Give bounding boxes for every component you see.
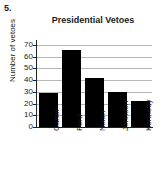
y-tick-label: 70 xyxy=(3,41,33,49)
y-tick-mark xyxy=(33,80,36,81)
y-tick-label: 20 xyxy=(3,100,33,108)
x-axis-category-label: Ford xyxy=(76,115,84,131)
y-tick-label: 10 xyxy=(3,111,33,119)
gridline xyxy=(37,45,152,46)
gridline xyxy=(37,68,152,69)
x-axis-category-label: Carter xyxy=(53,109,61,131)
y-tick-label: 60 xyxy=(3,53,33,61)
x-axis-category-label: Kennedy xyxy=(145,99,153,131)
y-tick-mark xyxy=(33,45,36,46)
presidential-vetoes-figure: 5. Presidential Vetoes Number of vetoes … xyxy=(0,0,161,178)
x-axis-category-label: Johnson xyxy=(122,101,130,131)
x-axis-category-label: Nixon xyxy=(99,111,107,131)
y-tick-label: 0 xyxy=(3,123,33,131)
y-tick-label: 40 xyxy=(3,76,33,84)
y-tick-mark xyxy=(33,127,36,128)
gridline xyxy=(37,57,152,58)
y-tick-mark xyxy=(33,68,36,69)
y-tick-label: 50 xyxy=(3,64,33,72)
y-tick-label: 30 xyxy=(3,88,33,96)
y-axis-tick-labels: 010203040506070 xyxy=(0,0,33,178)
y-tick-mark xyxy=(33,104,36,105)
y-tick-mark xyxy=(33,115,36,116)
chart-title: Presidential Vetoes xyxy=(30,15,156,25)
y-tick-mark xyxy=(33,92,36,93)
y-tick-mark xyxy=(33,57,36,58)
